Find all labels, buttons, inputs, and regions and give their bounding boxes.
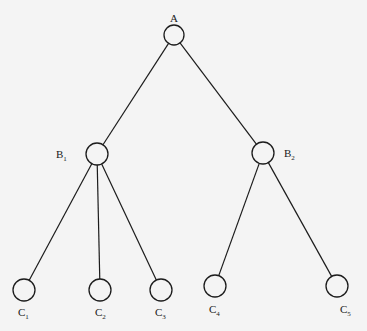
nodes-group: AB1B2C1C2C3C4C5 [13, 12, 351, 321]
node-circle [86, 143, 108, 165]
node-c1: C1 [13, 279, 35, 321]
node-c4: C4 [204, 275, 226, 318]
node-b2: B2 [252, 142, 295, 164]
edge-a-b1 [103, 43, 169, 144]
node-label: C5 [340, 303, 351, 318]
node-circle [13, 279, 35, 301]
node-label: C1 [18, 306, 29, 321]
edge-b1-c1 [29, 164, 92, 281]
node-label: B2 [284, 147, 295, 162]
tree-diagram: AB1B2C1C2C3C4C5 [0, 0, 367, 331]
node-label: B1 [56, 148, 67, 163]
edge-b1-c3 [102, 164, 157, 280]
node-circle [164, 25, 184, 45]
edge-b2-c4 [219, 163, 260, 275]
node-label: A [170, 12, 178, 24]
node-label: C2 [95, 306, 106, 321]
node-label: C3 [155, 306, 166, 321]
node-c3: C3 [150, 279, 172, 321]
edge-a-b2 [180, 43, 256, 144]
edge-b1-c2 [97, 165, 100, 279]
node-b1: B1 [56, 143, 108, 165]
node-circle [204, 275, 226, 297]
node-c2: C2 [89, 279, 111, 321]
node-label: C4 [209, 303, 220, 318]
edges-group [29, 43, 331, 280]
node-circle [89, 279, 111, 301]
node-circle [326, 275, 348, 297]
node-circle [150, 279, 172, 301]
edge-b2-c5 [268, 163, 331, 277]
node-c5: C5 [326, 275, 351, 318]
node-a: A [164, 12, 184, 45]
node-circle [252, 142, 274, 164]
